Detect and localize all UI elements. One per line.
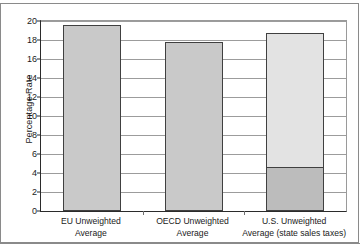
category-axis-labels: EU UnweightedAverageOECD UnweightedAvera…: [40, 216, 345, 246]
y-tick-label-14: 14: [27, 73, 37, 83]
bar-2-segment-1: [166, 43, 222, 210]
y-tick-label-10: 10: [27, 111, 37, 121]
bar-1: [63, 25, 121, 211]
category-label-3-line-2: Average (state sales taxes): [224, 228, 360, 240]
gridline-0: [41, 211, 346, 212]
y-tick-label-16: 16: [27, 54, 37, 64]
y-tick-label-2: 2: [32, 187, 37, 197]
figure-bottom-rule: [0, 243, 360, 244]
bar-3: [266, 33, 324, 211]
y-axis-title: Percentage Rate: [24, 29, 34, 189]
bar-2: [165, 42, 223, 211]
y-tick-label-6: 6: [32, 149, 37, 159]
bar-series: [41, 21, 346, 211]
category-label-3-line-1: U.S. Unweighted: [224, 216, 360, 228]
bar-3-segment-1: [267, 34, 323, 166]
bar-1-segment-1: [64, 26, 120, 210]
y-tick-label-0: 0: [32, 206, 37, 216]
y-tick-label-8: 8: [32, 130, 37, 140]
x-tick-1: [143, 211, 144, 215]
y-tick-label-4: 4: [32, 168, 37, 178]
y-tick-label-12: 12: [27, 92, 37, 102]
bar-3-segment-2: [267, 167, 323, 210]
y-tick-label-18: 18: [27, 35, 37, 45]
chart-figure: Percentage Rate 02468101214161820 EU Unw…: [0, 0, 360, 251]
x-tick-2: [244, 211, 245, 215]
category-label-3: U.S. UnweightedAverage (state sales taxe…: [224, 216, 360, 239]
y-tick-label-20: 20: [27, 16, 37, 26]
plot-area: 02468101214161820: [40, 20, 347, 212]
